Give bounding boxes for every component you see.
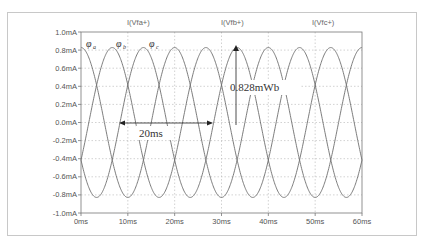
y-tick-label: -0.4mA (53, 154, 77, 163)
peak-label: 0.828mWb (230, 81, 280, 93)
y-tick-label: 0.0mA (55, 118, 77, 127)
y-tick-label: 0.8mA (55, 46, 77, 55)
svg-text:c: c (156, 44, 159, 50)
y-axis: 1.0mA0.8mA0.6mA0.4mA0.2mA0.0mA-0.2mA-0.4… (53, 28, 81, 218)
trace-label-c: I(Vfc+) (312, 18, 335, 27)
peak-annotation: 0.828mWb (228, 45, 300, 125)
waveform-chart: 1.0mA0.8mA0.6mA0.4mA0.2mA0.0mA-0.2mA-0.4… (0, 0, 427, 245)
phi-label-b: φ b (116, 38, 126, 50)
x-tick-label: 30ms (212, 217, 231, 226)
svg-text:φ: φ (149, 38, 155, 49)
svg-text:a: a (93, 44, 96, 50)
x-tick-label: 60ms (353, 217, 372, 226)
y-tick-label: 0.4mA (55, 82, 77, 91)
period-annotation: 20ms (119, 121, 213, 141)
svg-text:φ: φ (116, 38, 122, 49)
svg-text:φ: φ (86, 38, 92, 49)
x-tick-label: 20ms (165, 217, 184, 226)
phi-label-a: φ a (86, 38, 96, 50)
trace-label-b: I(Vfb+) (221, 18, 244, 27)
y-tick-label: -0.2mA (53, 136, 77, 145)
x-tick-label: 0ms (74, 217, 88, 226)
y-tick-label: 0.6mA (55, 64, 77, 73)
x-tick-label: 10ms (119, 217, 138, 226)
y-tick-label: -0.6mA (53, 172, 77, 181)
arrow-right-icon (207, 121, 213, 126)
x-tick-label: 50ms (306, 217, 325, 226)
period-label: 20ms (139, 127, 163, 139)
y-tick-label: 1.0mA (55, 28, 77, 37)
y-tick-label: -0.8mA (53, 190, 77, 199)
svg-text:b: b (123, 44, 126, 50)
x-tick-label: 40ms (259, 217, 278, 226)
x-axis: 0ms10ms20ms30ms40ms50ms60ms (74, 213, 372, 226)
phi-label-c: φ c (149, 38, 159, 50)
y-tick-label: 0.2mA (55, 100, 77, 109)
trace-label-a: I(Vfa+) (127, 18, 150, 27)
